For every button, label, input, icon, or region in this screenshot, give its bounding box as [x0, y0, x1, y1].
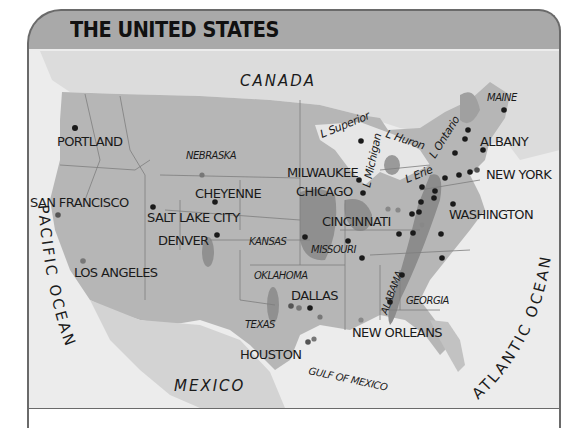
label-san-francisco: SAN FRANCISCO	[30, 195, 129, 210]
city-dot-portland	[72, 125, 78, 131]
label-mexico: MEXICO	[174, 377, 245, 395]
city-dot	[317, 314, 322, 319]
city-dot	[442, 175, 448, 181]
city-dot-maine	[501, 107, 507, 113]
city-dot	[431, 195, 437, 201]
us-map: CANADA MEXICO PACIFIC OCEAN ATLANTIC OCE…	[0, 0, 588, 428]
city-dot	[419, 184, 425, 190]
label-canada: CANADA	[240, 72, 316, 90]
city-dot-houston	[305, 339, 311, 345]
city-dot	[452, 150, 458, 156]
label-los-angeles: LOS ANGELES	[74, 265, 158, 280]
label-new-york: NEW YORK	[486, 167, 552, 182]
city-dot	[296, 305, 302, 311]
city-dot	[418, 199, 424, 205]
city-dot-los-angeles	[80, 258, 86, 264]
city-dot	[456, 172, 462, 178]
city-dot	[438, 231, 444, 237]
city-dot	[467, 169, 473, 175]
label-albany: ALBANY	[480, 134, 529, 149]
city-dot-salt-lake-city	[150, 204, 156, 210]
city-dot	[432, 188, 438, 194]
label-chicago: CHICAGO	[296, 184, 353, 199]
city-dot	[395, 207, 400, 212]
label-dallas: DALLAS	[291, 288, 338, 303]
city-dot-san-francisco	[55, 212, 61, 218]
label-new-orleans: NEW ORLEANS	[352, 325, 442, 340]
city-dot-new-orleans	[358, 317, 363, 322]
city-dot	[416, 209, 422, 215]
city-dot	[420, 223, 425, 228]
city-dot	[410, 230, 416, 236]
label-denver: DENVER	[158, 233, 209, 248]
city-dot-denver	[214, 232, 220, 238]
city-dot-chicago	[360, 190, 366, 196]
label-milwaukee: MILWAUKEE	[287, 165, 359, 180]
city-dot	[385, 206, 390, 211]
city-dot-kansas	[302, 234, 308, 240]
label-cincinnati: CINCINNATI	[322, 214, 391, 229]
city-dot-superior	[358, 138, 364, 144]
label-kansas: KANSAS	[249, 236, 288, 247]
city-dot	[439, 255, 445, 261]
label-salt-lake-city: SALT LAKE CITY	[147, 210, 240, 225]
label-washington: WASHINGTON	[449, 207, 533, 222]
city-dot-missouri	[345, 238, 351, 244]
city-dot	[288, 303, 294, 309]
city-dot	[465, 127, 471, 133]
city-dot-nebraska	[199, 172, 204, 177]
city-dot	[311, 336, 316, 341]
city-dot-cincinnati	[396, 231, 402, 237]
label-nebraska: NEBRASKA	[186, 150, 237, 161]
label-georgia: GEORGIA	[406, 295, 450, 306]
city-dot-new-york	[474, 167, 480, 173]
label-oklahoma: OKLAHOMA	[254, 270, 308, 281]
label-houston: HOUSTON	[240, 347, 301, 362]
city-dot	[409, 211, 415, 217]
label-missouri: MISSOURI	[311, 244, 357, 255]
label-texas: TEXAS	[245, 319, 276, 330]
city-dot-washington	[450, 201, 456, 207]
label-cheyenne: CHEYENNE	[195, 186, 261, 201]
label-portland: PORTLAND	[57, 134, 123, 149]
label-maine: MAINE	[487, 92, 518, 103]
label-atlantic-ocean: ATLANTIC OCEAN	[469, 253, 556, 403]
label-gulf-of-mexico: GULF OF MEXICO	[308, 365, 389, 393]
city-dot	[462, 136, 468, 142]
city-dot-dallas	[307, 305, 313, 311]
industrial-zone	[384, 155, 400, 175]
city-dot	[359, 255, 365, 261]
